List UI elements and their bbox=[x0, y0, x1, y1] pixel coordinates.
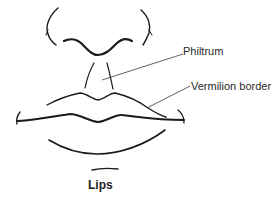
nose-base-curve bbox=[64, 39, 132, 55]
vermilion-leader-line bbox=[147, 86, 190, 108]
lips-diagram: Philtrum Vermilion border Lips bbox=[0, 0, 280, 197]
vermilion-border-label: Vermilion border bbox=[191, 81, 271, 92]
mouth-line bbox=[18, 114, 184, 122]
lips-illustration bbox=[0, 0, 280, 197]
left-mouth-corner bbox=[17, 112, 20, 124]
philtrum-left-ridge bbox=[85, 63, 94, 88]
philtrum-right-ridge bbox=[107, 63, 113, 89]
nose-drawing bbox=[46, 8, 152, 55]
right-mouth-corner bbox=[178, 110, 184, 123]
philtrum-label: Philtrum bbox=[183, 46, 223, 57]
left-nostril-arc bbox=[47, 8, 58, 45]
philtrum-leader-line bbox=[102, 54, 183, 80]
philtrum-drawing bbox=[85, 63, 113, 89]
lip-line-drawing bbox=[17, 110, 184, 124]
figure-caption: Lips bbox=[88, 179, 113, 191]
lower-lip-curve bbox=[49, 130, 165, 154]
upper-lip-outline bbox=[47, 93, 166, 117]
chin-line bbox=[92, 168, 118, 170]
right-nostril-arc bbox=[141, 10, 150, 45]
